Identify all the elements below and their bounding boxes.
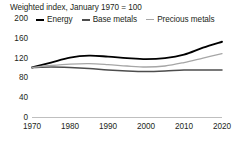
x-axis-tick-2010: 2010 xyxy=(175,122,193,131)
x-axis-tick-1970: 1970 xyxy=(23,122,41,131)
x-axis-tick-2020: 2020 xyxy=(213,122,231,131)
x-axis-tick-1990: 1990 xyxy=(99,122,117,131)
plot-area xyxy=(32,18,222,117)
x-axis-tick-2000: 2000 xyxy=(137,122,155,131)
weighted-index-line-chart: Weighted index, January 1970 = 100 Energ… xyxy=(0,0,232,141)
plot-svg xyxy=(32,18,222,117)
x-axis-line xyxy=(32,117,222,118)
x-axis-tick-1980: 1980 xyxy=(61,122,79,131)
series-line-energy xyxy=(32,42,222,68)
series-line-base-metals xyxy=(32,67,222,71)
